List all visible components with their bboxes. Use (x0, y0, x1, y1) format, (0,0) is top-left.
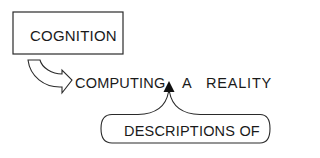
cognition-label: COGNITION (30, 28, 117, 43)
descriptions-of-label: DESCRIPTIONS OF (124, 124, 260, 139)
curved-arrow-icon (28, 60, 72, 93)
a-label: A (182, 76, 192, 91)
computing-label: COMPUTING (75, 76, 165, 91)
reality-label: REALITY (206, 76, 272, 91)
